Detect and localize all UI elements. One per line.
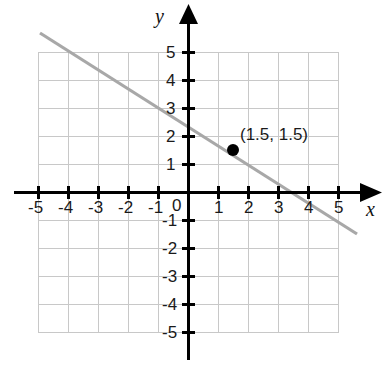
- x-tick-label-neg2: -2: [118, 199, 133, 216]
- y-tick-label-pos1: 1: [166, 156, 175, 173]
- x-tick-label-pos2: 2: [244, 199, 253, 216]
- y-tick-label-pos4: 4: [166, 72, 175, 89]
- graph-canvas: [0, 0, 388, 374]
- y-tick-label-neg1: -1: [162, 212, 177, 229]
- x-tick-label-neg3: -3: [88, 199, 103, 216]
- data-point-marker: [227, 144, 239, 156]
- y-tick-label-pos2: 2: [166, 128, 175, 145]
- y-axis-arrow-up: [179, 4, 198, 24]
- x-tick-label-pos3: 3: [274, 199, 283, 216]
- y-tick-label-neg2: -2: [162, 240, 177, 257]
- x-tick-label-neg4: -4: [58, 199, 73, 216]
- x-tick-label-neg1: -1: [148, 199, 163, 216]
- y-tick-label-pos5: 5: [166, 44, 175, 61]
- x-tick-label-neg5: -5: [28, 199, 43, 216]
- y-tick-label-neg3: -3: [162, 268, 177, 285]
- y-tick-label-neg5: -5: [162, 324, 177, 341]
- y-tick-label-pos3: 3: [166, 100, 175, 117]
- x-tick-label-pos1: 1: [214, 199, 223, 216]
- x-tick-label-pos5: 5: [334, 199, 343, 216]
- y-tick-label-neg4: -4: [162, 296, 177, 313]
- y-axis: [179, 4, 198, 360]
- x-tick-label-pos4: 4: [304, 199, 313, 216]
- point-coordinate-label: (1.5, 1.5): [240, 126, 308, 143]
- y-axis-label: y: [155, 6, 164, 26]
- coordinate-graph: y x 0 -5 -4 -3 -2 -1 1 2 3 4 5 5 4 3 2 1…: [0, 0, 388, 374]
- x-axis-label: x: [366, 199, 375, 219]
